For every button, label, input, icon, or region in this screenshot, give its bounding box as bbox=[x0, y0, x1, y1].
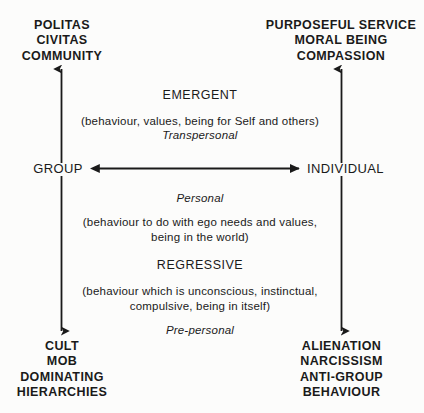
band-description-emergent-line-1: (behaviour, values, being for Self and o… bbox=[75, 114, 325, 129]
band-description-regressive-line-1: (behaviour which is unconscious, instinc… bbox=[77, 284, 323, 299]
band-heading-regressive: REGRESSIVE bbox=[120, 258, 280, 273]
corner-label-top-right: PURPOSEFUL SERVICE MORAL BEING COMPASSIO… bbox=[257, 18, 424, 64]
corner-label-top-left: POLITAS CIVITAS COMMUNITY bbox=[0, 18, 124, 64]
level-name-pre-personal: Pre-personal bbox=[145, 324, 255, 338]
corner-top-left-line-3: COMMUNITY bbox=[0, 49, 124, 64]
corner-top-left-line-1: POLITAS bbox=[0, 18, 124, 33]
band-description-regressive: (behaviour which is unconscious, instinc… bbox=[77, 284, 323, 314]
corner-label-bottom-left: CULT MOB DOMINATING HIERARCHIES bbox=[0, 339, 124, 400]
corner-bottom-left-line-4: HIERARCHIES bbox=[0, 385, 124, 400]
level-name-personal: Personal bbox=[150, 192, 250, 206]
band-description-regressive-line-2: compulsive, being in itself) bbox=[77, 299, 323, 314]
level-name-transpersonal: Transpersonal bbox=[140, 129, 260, 143]
band-heading-emergent: EMERGENT bbox=[120, 88, 280, 103]
axis-label-individual: INDIVIDUAL bbox=[307, 161, 411, 176]
corner-top-right-line-3: COMPASSION bbox=[257, 49, 424, 64]
corner-bottom-right-line-2: NARCISSISM bbox=[275, 354, 408, 369]
corner-bottom-right-line-3: ANTI-GROUP bbox=[275, 370, 408, 385]
corner-bottom-left-line-3: DOMINATING bbox=[0, 370, 124, 385]
axis-label-group: GROUP bbox=[26, 161, 90, 176]
corner-label-bottom-right: ALIENATION NARCISSISM ANTI-GROUP BEHAVIO… bbox=[275, 339, 408, 400]
diagram-canvas: POLITAS CIVITAS COMMUNITY PURPOSEFUL SER… bbox=[0, 0, 424, 413]
band-description-personal-line-1: (behaviour to do with ego needs and valu… bbox=[80, 215, 320, 230]
corner-top-right-line-1: PURPOSEFUL SERVICE bbox=[257, 18, 424, 33]
corner-bottom-right-line-1: ALIENATION bbox=[275, 339, 408, 354]
corner-top-right-line-2: MORAL BEING bbox=[257, 33, 424, 48]
band-description-personal: (behaviour to do with ego needs and valu… bbox=[80, 215, 320, 245]
band-description-emergent: (behaviour, values, being for Self and o… bbox=[75, 114, 325, 129]
corner-bottom-left-line-1: CULT bbox=[0, 339, 124, 354]
corner-top-left-line-2: CIVITAS bbox=[0, 33, 124, 48]
band-description-personal-line-2: being in the world) bbox=[80, 230, 320, 245]
corner-bottom-left-line-2: MOB bbox=[0, 354, 124, 369]
corner-bottom-right-line-4: BEHAVIOUR bbox=[275, 385, 408, 400]
